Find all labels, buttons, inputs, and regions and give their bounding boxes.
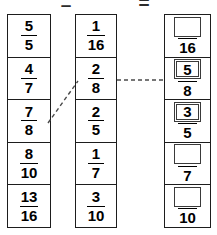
fraction-denominator: 16	[179, 40, 196, 55]
fraction-numerator: 5	[24, 18, 34, 35]
diagonal-connector-line	[48, 81, 78, 123]
fraction-denominator: 7	[24, 79, 34, 96]
fraction: 7 8	[21, 104, 37, 139]
answer-numerator-input[interactable]: 5	[174, 59, 201, 79]
fraction: 2 8	[88, 61, 104, 96]
fraction-denominator: 7	[91, 164, 101, 181]
answer-numerator-input[interactable]	[174, 17, 201, 37]
answer-fraction: 5 8	[174, 59, 201, 98]
minuend-cell: 4 7	[8, 58, 50, 101]
answer-cell: 10	[165, 185, 210, 227]
fraction-denominator: 8	[91, 79, 101, 96]
fraction-denominator: 8	[183, 83, 191, 98]
minus-operator: –	[53, 0, 79, 14]
minuend-column: 5 5 4 7 7 8 8 10	[7, 14, 51, 228]
fraction-denominator: 7	[183, 168, 191, 183]
fraction: 1 7	[88, 146, 104, 181]
fraction-numerator: 8	[24, 146, 34, 163]
fraction-denominator: 10	[20, 164, 39, 181]
minuend-cell: 5 5	[8, 15, 50, 58]
subtrahend-cell: 2 5	[76, 100, 116, 143]
fraction: 3 10	[87, 189, 106, 224]
subtrahend-cell: 2 8	[76, 58, 116, 101]
answer-cell: 16	[165, 15, 210, 58]
fraction-denominator: 5	[183, 125, 191, 140]
answer-cell: 7	[165, 143, 210, 186]
fraction-numerator: 1	[91, 146, 101, 163]
answer-numerator-input[interactable]: 3	[174, 102, 201, 122]
fraction: 2 5	[88, 104, 104, 139]
answer-fraction: 10	[174, 187, 201, 226]
fraction-numerator: 1	[91, 18, 101, 35]
answer-cell: 3 5	[165, 100, 210, 143]
answer-fraction: 7	[174, 144, 201, 183]
answer-numerator-input[interactable]	[174, 187, 201, 207]
fraction-denominator: 8	[24, 121, 34, 138]
equals-operator: =	[131, 0, 157, 12]
answer-numerator-input[interactable]	[174, 144, 201, 164]
subtrahend-column: 1 16 2 8 2 5 1 7	[75, 14, 117, 228]
fraction-denominator: 5	[24, 36, 34, 53]
answer-column: 16 5 8 3 5 7	[164, 14, 211, 228]
fraction-numerator: 2	[91, 61, 101, 78]
fraction-numerator: 2	[91, 104, 101, 121]
fraction-denominator: 16	[20, 207, 39, 224]
minuend-cell: 8 10	[8, 143, 50, 186]
fraction-numerator: 3	[91, 189, 101, 206]
fraction-numerator: 13	[20, 189, 39, 206]
fraction: 1 16	[87, 18, 106, 53]
fraction: 5 5	[21, 18, 37, 53]
fraction: 8 10	[20, 146, 39, 181]
fraction-numerator: 4	[24, 61, 34, 78]
fraction-denominator: 10	[87, 207, 106, 224]
worksheet-canvas: – = 5 5 4 7 7 8 8	[0, 0, 217, 235]
fraction-denominator: 10	[179, 210, 196, 225]
fraction-denominator: 16	[87, 36, 106, 53]
minuend-cell: 7 8	[8, 100, 50, 143]
answer-cell: 5 8	[165, 58, 210, 101]
minuend-cell: 13 16	[8, 185, 50, 227]
fraction-numerator: 7	[24, 104, 34, 121]
fraction: 13 16	[20, 189, 39, 224]
subtrahend-cell: 1 7	[76, 143, 116, 186]
fraction-denominator: 5	[91, 121, 101, 138]
answer-fraction: 3 5	[174, 102, 201, 141]
subtrahend-cell: 3 10	[76, 185, 116, 227]
subtrahend-cell: 1 16	[76, 15, 116, 58]
fraction: 4 7	[21, 61, 37, 96]
answer-fraction: 16	[174, 17, 201, 56]
